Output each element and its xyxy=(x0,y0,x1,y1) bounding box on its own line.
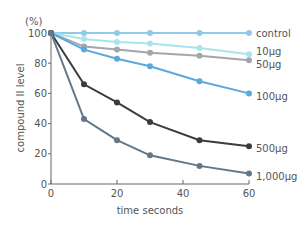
x-tick-label: 60 xyxy=(243,188,256,199)
series-100g xyxy=(48,30,252,96)
data-point xyxy=(114,39,120,45)
line-chart: 0204060020406080100 control10µg50µg100µg… xyxy=(0,0,306,226)
legend-label: 500µg xyxy=(256,143,288,154)
x-tick-label: 0 xyxy=(48,188,54,199)
legend-label: 50µg xyxy=(256,59,281,70)
data-point xyxy=(147,63,153,69)
y-tick-label: 80 xyxy=(34,58,47,69)
y-tick-label: 0 xyxy=(41,179,47,190)
legend: control10µg50µg100µg500µg1,000µg xyxy=(256,28,297,182)
y-tick-label: 20 xyxy=(34,148,47,159)
data-point xyxy=(114,99,120,105)
data-point xyxy=(147,50,153,56)
data-point xyxy=(114,47,120,53)
data-point xyxy=(48,30,54,36)
legend-label: 1,000µg xyxy=(256,171,297,182)
data-point xyxy=(197,78,203,84)
data-point xyxy=(197,163,203,169)
y-tick-label: 60 xyxy=(34,88,47,99)
data-point xyxy=(197,45,203,51)
legend-label: control xyxy=(256,28,291,39)
y-tick-label: 100 xyxy=(28,28,47,39)
axes: 0204060020406080100 xyxy=(28,28,255,200)
data-point xyxy=(81,36,87,42)
x-axis-title: time seconds xyxy=(117,205,184,216)
data-point xyxy=(81,116,87,122)
series-lines xyxy=(48,30,252,176)
data-point xyxy=(246,170,252,176)
data-point xyxy=(197,30,203,36)
legend-label: 10µg xyxy=(256,46,281,57)
series-line xyxy=(51,33,249,60)
data-point xyxy=(147,119,153,125)
data-point xyxy=(114,56,120,62)
y-unit-label: (%) xyxy=(25,16,42,27)
data-point xyxy=(147,152,153,158)
data-point xyxy=(147,30,153,36)
legend-label: 100µg xyxy=(256,91,288,102)
y-axis-title: compound II level xyxy=(15,64,26,153)
data-point xyxy=(246,30,252,36)
data-point xyxy=(246,143,252,149)
data-point xyxy=(114,137,120,143)
data-point xyxy=(246,57,252,63)
data-point xyxy=(246,51,252,57)
y-tick-label: 40 xyxy=(34,118,47,129)
series-control xyxy=(48,30,252,36)
data-point xyxy=(114,30,120,36)
data-point xyxy=(81,30,87,36)
x-tick-label: 40 xyxy=(177,188,190,199)
data-point xyxy=(81,47,87,53)
data-point xyxy=(197,137,203,143)
data-point xyxy=(197,53,203,59)
data-point xyxy=(246,90,252,96)
x-tick-label: 20 xyxy=(111,188,124,199)
data-point xyxy=(147,41,153,47)
data-point xyxy=(81,81,87,87)
